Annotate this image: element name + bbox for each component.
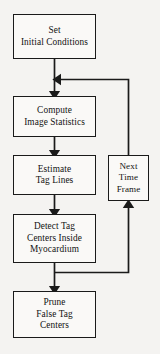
node-next-time-frame[interactable]: Next Time Frame <box>108 155 149 201</box>
node-estimate-tag-lines[interactable]: Estimate Tag Lines <box>13 155 96 195</box>
node-set-initial-conditions[interactable]: Set Initial Conditions <box>13 14 96 59</box>
flowchart-canvas: Set Initial Conditions Compute Image Sta… <box>0 0 160 354</box>
node-compute-image-statistics[interactable]: Compute Image Statistics <box>13 96 96 137</box>
node-detect-tag-centers[interactable]: Detect Tag Centers Inside Myocardium <box>13 214 96 263</box>
node-prune-false-tag-centers[interactable]: Prune False Tag Centers <box>13 291 96 338</box>
